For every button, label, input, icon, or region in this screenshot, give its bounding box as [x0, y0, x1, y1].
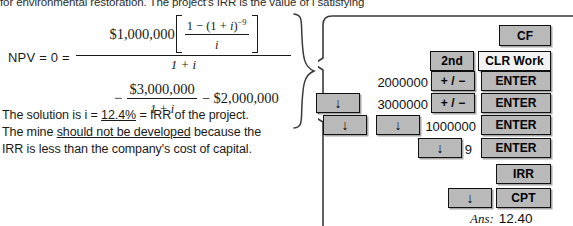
calculator-answer: Ans:12.40 — [470, 212, 533, 226]
answer-value: 12.40 — [499, 211, 533, 226]
decision-emphasis: should not be developed — [57, 125, 191, 139]
answer-label: Ans: — [470, 211, 494, 226]
conclusion-line-2-prefix: The mine — [2, 125, 57, 139]
value-cf0: 2000000 — [366, 76, 428, 89]
key-cf[interactable]: CF — [499, 25, 551, 46]
numerator-coefficient: $1,000,000 — [109, 26, 174, 43]
annuity-factor-bracket: 1 − (1 + i)−9 i — [176, 15, 258, 53]
npv-main-fraction: $1,000,000 1 − (1 + i)−9 i 1 + i — [76, 15, 291, 73]
conclusion-line-2-suffix: because the — [191, 125, 261, 139]
page-root: for environmental restoration. The proje… — [0, 0, 573, 226]
third-term: − $2,000,000 — [202, 90, 279, 107]
annuity-numerator: 1 − (1 + i)−9 — [185, 19, 249, 34]
npv-main-denominator: 1 + i — [76, 56, 291, 73]
annuity-fraction-bar — [185, 34, 249, 35]
key-enter-4[interactable]: ENTER — [481, 138, 551, 158]
conclusion-line-1-prefix: The solution is i = — [2, 108, 101, 122]
key-plus-minus-1[interactable]: + / − — [431, 71, 475, 91]
value-cf2: 1000000 — [414, 120, 476, 133]
key-enter-2[interactable]: ENTER — [481, 93, 551, 113]
conclusion-line-1: The solution is i = 12.4% = IRR of the p… — [2, 108, 249, 122]
equation-group-brace — [292, 12, 318, 130]
key-down-arrow-5[interactable]: ↓ — [448, 188, 492, 208]
key-down-arrow-2[interactable]: ↓ — [323, 115, 367, 135]
bracket-right-icon — [252, 15, 258, 53]
key-enter-3[interactable]: ENTER — [481, 115, 551, 135]
key-2nd[interactable]: 2nd — [430, 51, 474, 71]
npv-main-numerator: $1,000,000 1 − (1 + i)−9 i — [76, 15, 291, 55]
irr-value: 12.4% — [101, 108, 136, 122]
key-enter-1[interactable]: ENTER — [481, 71, 551, 91]
key-clr-work[interactable]: CLR Work — [478, 51, 551, 71]
value-frequency: 9 — [446, 143, 472, 156]
conclusion-line-1-suffix: = IRR of the project. — [136, 108, 249, 122]
conclusion-line-3: IRR is less than the company's cost of c… — [2, 142, 252, 156]
second-term-numerator: $3,000,000 — [127, 81, 196, 98]
intro-sentence-text: for environmental restoration. The proje… — [0, 0, 364, 8]
intro-sentence: for environmental restoration. The proje… — [0, 0, 360, 9]
conclusion-line-2: The mine should not be developed because… — [2, 125, 261, 139]
value-cf1: 3000000 — [366, 98, 428, 111]
key-plus-minus-2[interactable]: + / − — [431, 93, 475, 113]
key-down-arrow-1[interactable]: ↓ — [316, 93, 360, 113]
calculator-keypad[interactable]: CF 2nd CLR Work 2000000 + / − ENTER ↓ 30… — [318, 14, 573, 226]
main-denominator-text: 1 + i — [171, 57, 196, 72]
annuity-denominator: i — [215, 38, 218, 52]
key-cpt[interactable]: CPT — [496, 188, 551, 208]
annuity-factor: 1 − (1 + i)−9 i — [182, 15, 252, 53]
annuity-numerator-prefix: 1 − (1 + — [187, 19, 230, 33]
npv-equation-lhs: NPV = 0 = — [8, 50, 70, 65]
second-term-minus: − — [114, 90, 122, 107]
annuity-exponent: −9 — [238, 17, 247, 27]
npv-equation: NPV = 0 = $1,000,000 1 − (1 + i)−9 i 1 +… — [6, 12, 306, 106]
second-fraction-bar — [127, 98, 196, 99]
key-irr[interactable]: IRR — [496, 164, 551, 184]
